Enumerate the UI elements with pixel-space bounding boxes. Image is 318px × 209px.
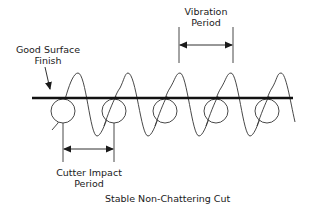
cutter-circle-5 [255, 99, 279, 123]
cutter-circles [51, 99, 279, 123]
cutter-circle-3 [153, 99, 177, 123]
chatter-diagram [0, 0, 318, 209]
cutter-impact-line1: Cutter Impact [50, 167, 128, 178]
vibration-period-label: Vibration Period [176, 6, 236, 28]
surface-finish-line2: Finish [12, 55, 84, 66]
impact-period-dimension [63, 123, 114, 162]
surface-pointer-arrow [45, 67, 50, 89]
surface-finish-label: Good Surface Finish [12, 44, 84, 66]
vibration-period-line1: Vibration [176, 6, 236, 17]
vibration-period-line2: Period [176, 17, 236, 28]
diagram-caption: Stable Non-Chattering Cut [105, 193, 230, 204]
cutter-impact-line2: Period [50, 178, 128, 189]
cutter-circle-2 [102, 99, 126, 123]
cutter-circle-1 [51, 99, 75, 123]
cutter-impact-period-label: Cutter Impact Period [50, 167, 128, 189]
cutter-circle-4 [204, 99, 228, 123]
vibration-period-dimension [179, 27, 233, 63]
surface-finish-line1: Good Surface [12, 44, 84, 55]
